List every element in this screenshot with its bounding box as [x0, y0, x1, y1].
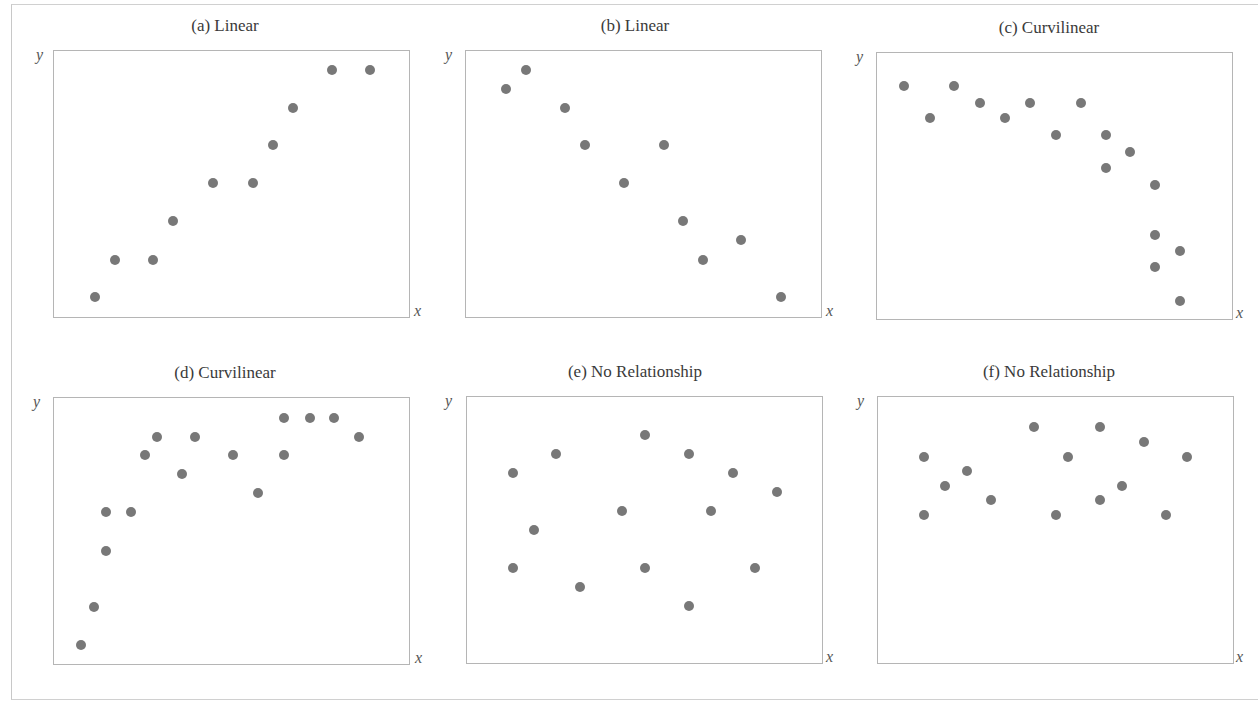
- y-axis-label: y: [33, 393, 40, 411]
- data-point: [501, 84, 511, 94]
- data-point: [228, 450, 238, 460]
- plot-area: [466, 396, 823, 664]
- panel-title: (b) Linear: [430, 16, 840, 36]
- data-point: [508, 468, 518, 478]
- data-point: [678, 216, 688, 226]
- data-point: [1076, 98, 1086, 108]
- data-point: [190, 432, 200, 442]
- plot-area: [53, 397, 410, 665]
- y-axis-label: y: [856, 48, 863, 66]
- data-point: [1139, 437, 1149, 447]
- data-point: [772, 487, 782, 497]
- data-point: [508, 563, 518, 573]
- plot-area: [877, 396, 1234, 664]
- data-point: [90, 292, 100, 302]
- data-point: [208, 178, 218, 188]
- data-point: [619, 178, 629, 188]
- data-point: [521, 65, 531, 75]
- y-axis-label: y: [36, 46, 43, 64]
- data-point: [919, 510, 929, 520]
- data-point: [684, 449, 694, 459]
- data-point: [1150, 180, 1160, 190]
- data-point: [89, 602, 99, 612]
- data-point: [899, 81, 909, 91]
- panel-title: (d) Curvilinear: [20, 363, 430, 383]
- data-point: [640, 563, 650, 573]
- data-point: [152, 432, 162, 442]
- data-point: [1150, 230, 1160, 240]
- data-point: [110, 255, 120, 265]
- data-point: [305, 413, 315, 423]
- panel-title: (c) Curvilinear: [840, 18, 1258, 38]
- x-axis-label: x: [415, 649, 422, 667]
- data-point: [1095, 495, 1105, 505]
- panel-title: (e) No Relationship: [430, 362, 840, 382]
- data-point: [706, 506, 716, 516]
- y-axis-label: y: [857, 392, 864, 410]
- data-point: [551, 449, 561, 459]
- data-point: [248, 178, 258, 188]
- data-point: [1175, 246, 1185, 256]
- data-point: [529, 525, 539, 535]
- data-point: [253, 488, 263, 498]
- panel-f: (f) No Relationship y x: [840, 362, 1259, 682]
- plot-area: [876, 52, 1233, 320]
- panel-e: (e) No Relationship y x: [430, 362, 840, 682]
- data-point: [962, 466, 972, 476]
- data-point: [986, 495, 996, 505]
- data-point: [736, 235, 746, 245]
- data-point: [698, 255, 708, 265]
- data-point: [1175, 296, 1185, 306]
- data-point: [177, 469, 187, 479]
- data-point: [279, 450, 289, 460]
- data-point: [279, 413, 289, 423]
- data-point: [354, 432, 364, 442]
- data-point: [148, 255, 158, 265]
- x-axis-label: x: [826, 648, 833, 666]
- data-point: [560, 103, 570, 113]
- data-point: [1150, 262, 1160, 272]
- x-axis-label: x: [1236, 304, 1243, 322]
- x-axis-label: x: [1236, 648, 1243, 666]
- data-point: [1051, 510, 1061, 520]
- data-point: [329, 413, 339, 423]
- data-point: [76, 640, 86, 650]
- data-point: [268, 140, 278, 150]
- data-point: [327, 65, 337, 75]
- data-point: [728, 468, 738, 478]
- data-point: [617, 506, 627, 516]
- data-point: [580, 140, 590, 150]
- plot-area: [53, 50, 410, 318]
- y-axis-label: y: [445, 46, 452, 64]
- data-point: [1029, 422, 1039, 432]
- panel-title: (a) Linear: [20, 16, 430, 36]
- data-point: [750, 563, 760, 573]
- data-point: [1063, 452, 1073, 462]
- data-point: [1051, 130, 1061, 140]
- data-point: [659, 140, 669, 150]
- y-axis-label: y: [445, 392, 452, 410]
- data-point: [1125, 147, 1135, 157]
- x-axis-label: x: [826, 302, 833, 320]
- data-point: [975, 98, 985, 108]
- data-point: [949, 81, 959, 91]
- panel-title: (f) No Relationship: [840, 362, 1258, 382]
- x-axis-label: x: [414, 302, 421, 320]
- data-point: [1182, 452, 1192, 462]
- data-point: [101, 507, 111, 517]
- data-point: [168, 216, 178, 226]
- data-point: [1117, 481, 1127, 491]
- data-point: [575, 582, 585, 592]
- data-point: [1101, 163, 1111, 173]
- data-point: [925, 113, 935, 123]
- data-point: [288, 103, 298, 113]
- data-point: [1000, 113, 1010, 123]
- data-point: [1161, 510, 1171, 520]
- panel-a: (a) Linear y x: [20, 16, 430, 336]
- panel-d: (d) Curvilinear y x: [20, 363, 430, 683]
- panel-c: (c) Curvilinear y x: [840, 18, 1259, 338]
- data-point: [1025, 98, 1035, 108]
- data-point: [640, 430, 650, 440]
- data-point: [140, 450, 150, 460]
- data-point: [365, 65, 375, 75]
